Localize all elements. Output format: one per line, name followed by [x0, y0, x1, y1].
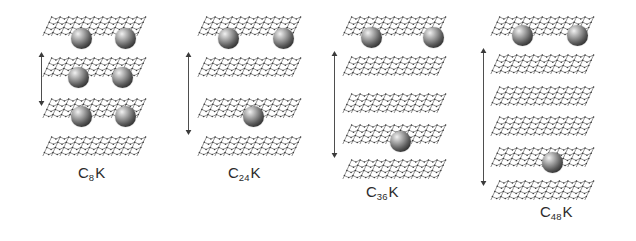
- formula-element-potassium: K: [562, 203, 573, 220]
- formula-element-carbon: C: [540, 203, 551, 220]
- potassium-atom: [567, 25, 588, 46]
- formula-subscript: 48: [551, 211, 562, 222]
- gic-staging-figure: C8KC24KC36KC48K: [0, 0, 636, 241]
- graphene-layer: [488, 178, 608, 200]
- potassium-atom: [542, 152, 563, 173]
- graphene-layer: [488, 114, 608, 136]
- repeat-distance-arrow: [479, 48, 488, 186]
- graphene-layer: [488, 52, 608, 74]
- formula-label-c48k: C48K: [540, 203, 573, 222]
- potassium-atom: [512, 25, 533, 46]
- graphene-layer: [488, 84, 608, 106]
- structure-panel-c48k: C48K: [0, 0, 636, 241]
- graphene-layer: [488, 14, 608, 36]
